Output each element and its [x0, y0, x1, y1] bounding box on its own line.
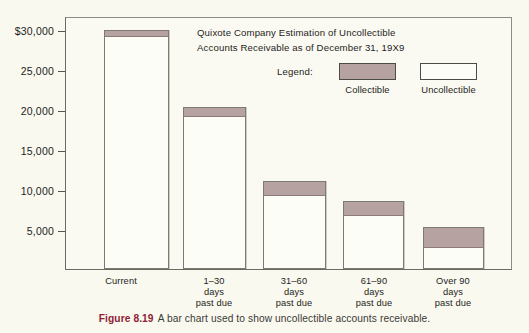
bar-1-30-days [183, 107, 246, 269]
legend-title: Legend: [277, 66, 313, 77]
y-tick-label-20000: 20,000 [21, 105, 54, 117]
chart-title-line-2: Accounts Receivable as of December 31, 1… [197, 40, 405, 55]
bar-current [104, 30, 169, 269]
legend-swatch-uncollectible [420, 63, 477, 80]
legend-label-uncollectible: Uncollectible [420, 84, 477, 95]
bar-over-90-days [423, 227, 484, 269]
bar-cap-collectible-61-90-days [344, 202, 403, 216]
y-tick-label-30000: $30,000 [15, 25, 54, 37]
legend-entry-collectible: Collectible [339, 63, 396, 95]
x-label-current: Current [74, 276, 168, 287]
chart-title: Quixote Company Estimation of Uncollecti… [197, 25, 405, 55]
legend-entry-uncollectible: Uncollectible [420, 63, 477, 95]
legend-label-collectible: Collectible [339, 84, 396, 95]
x-label-over-90-days-line-1: Over 90 [406, 276, 500, 287]
bar-cap-collectible-over-90-days [424, 228, 483, 248]
legend: Legend: Collectible Uncollectible [277, 63, 487, 108]
bar-cap-collectible-1-30-days [184, 108, 245, 117]
bar-cap-collectible-current [105, 31, 168, 37]
x-label-current-line-1: Current [74, 276, 168, 287]
chart-title-line-1: Quixote Company Estimation of Uncollecti… [197, 25, 405, 40]
x-label-over-90-days-line-3: past due [406, 298, 500, 309]
y-tick-label-25000: 25,000 [21, 65, 54, 77]
figure-caption: Figure 8.19A bar chart used to show unco… [0, 313, 529, 324]
bar-61-90-days [343, 201, 404, 269]
bar-31-60-days [263, 181, 326, 269]
figure-caption-text: A bar chart used to show uncollectible a… [158, 313, 431, 324]
legend-swatch-collectible [339, 63, 396, 80]
bar-cap-collectible-31-60-days [264, 182, 325, 196]
y-tick-label-15000: 15,000 [21, 145, 54, 157]
y-tick-label-10000: 10,000 [21, 185, 54, 197]
x-label-over-90-days: Over 90 days past due [406, 276, 500, 309]
y-tick-label-5000: 5,000 [27, 225, 54, 237]
figure-container: $30,000 25,000 20,000 15,000 10,000 5,00… [0, 0, 529, 333]
figure-number: Figure 8.19 [99, 313, 154, 324]
x-label-over-90-days-line-2: days [406, 287, 500, 298]
plot-area: Quixote Company Estimation of Uncollecti… [65, 17, 512, 270]
y-axis: $30,000 25,000 20,000 15,000 10,000 5,00… [0, 0, 62, 333]
